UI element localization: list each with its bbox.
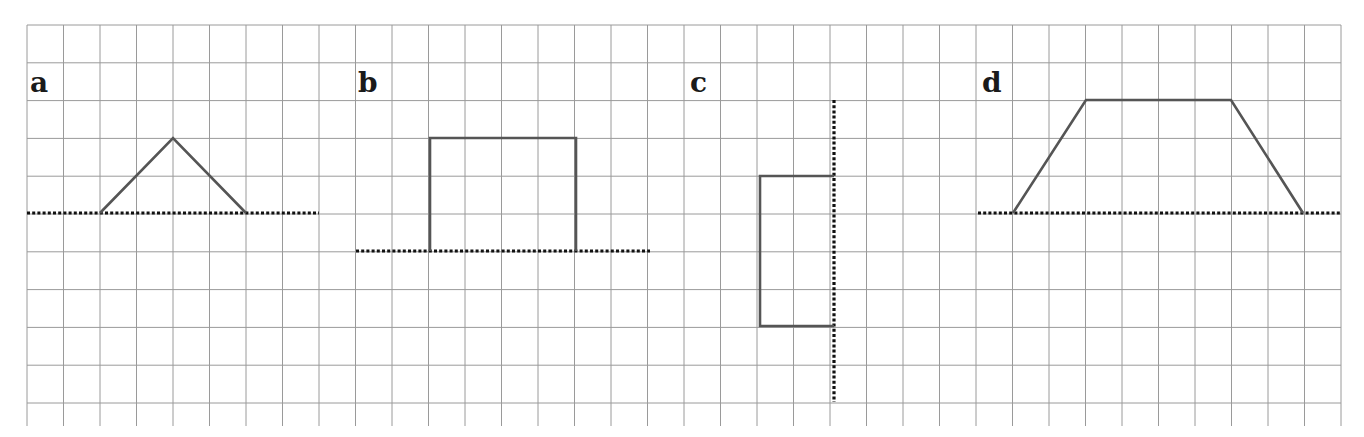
panel-labels: a b c d: [30, 66, 1002, 99]
half-shapes: [100, 100, 1303, 326]
shape-rectangle-b: [430, 138, 576, 251]
panel-label-b: b: [358, 66, 378, 99]
graph-paper-grid: [27, 25, 1341, 426]
panel-label-d: d: [982, 66, 1002, 99]
panel-label-a: a: [30, 66, 48, 99]
shape-rectangle-c: [760, 176, 834, 326]
panel-label-c: c: [690, 66, 707, 99]
symmetry-grid-figure: a b c d: [0, 0, 1364, 437]
